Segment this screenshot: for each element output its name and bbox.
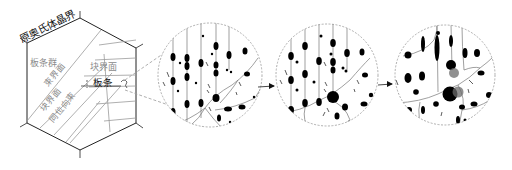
packet-boundaries — [27, 30, 136, 143]
arrow-stage2-to-stage3 — [378, 81, 393, 87]
stage-2-circle — [276, 20, 378, 135]
microstructure-diagram: 原奥氏体晶界 板条群 束界面 块界面 板条 块界面 同位向束 — [0, 0, 512, 170]
block-boundary-top-label: 块界面 — [90, 61, 117, 72]
lath-label: 板条 — [93, 77, 113, 88]
stage-3-circle — [395, 22, 495, 132]
stage-1-circle — [158, 20, 264, 130]
lath-group-label: 板条群 — [30, 57, 57, 68]
grain-boundary-label: 原奥氏体晶界 — [18, 7, 78, 45]
